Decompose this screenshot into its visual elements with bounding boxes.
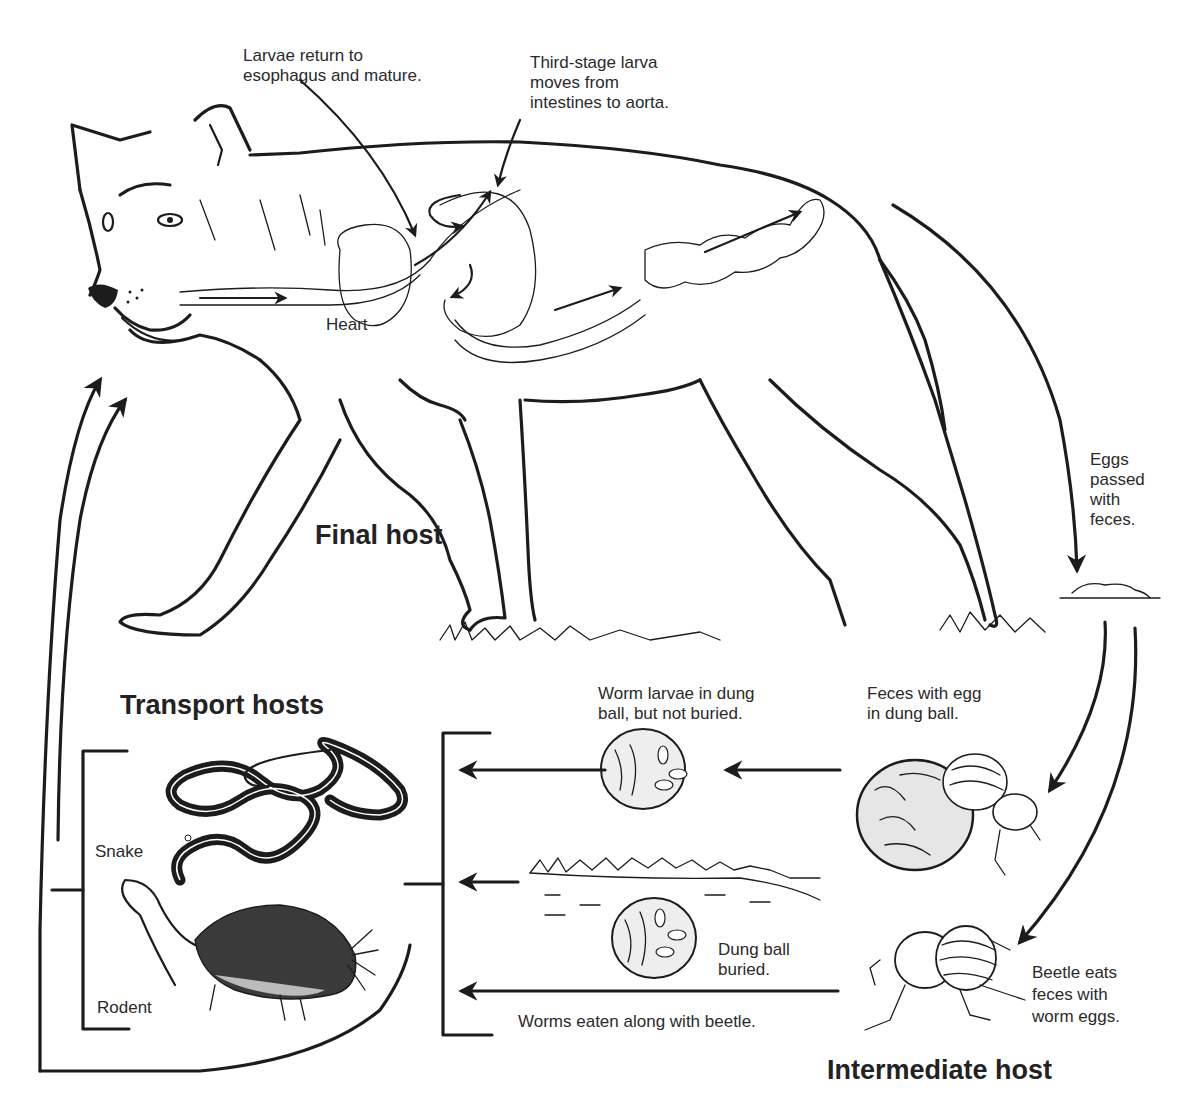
migration-path <box>180 80 824 363</box>
dung-ball-buried-label: Dung ball buried. <box>718 940 790 980</box>
life-cycle-diagram <box>0 0 1197 1111</box>
snake-illustration <box>171 743 402 881</box>
intermediate-host-title: Intermediate host <box>827 1055 1052 1086</box>
worm-larvae-label: Worm larvae in dung ball, but not buried… <box>598 684 755 724</box>
arrow-to-feces-ball <box>1050 622 1105 790</box>
rodent-label: Rodent <box>97 998 152 1018</box>
final-host-title: Final host <box>315 520 443 551</box>
wolf-illustration <box>72 106 1045 640</box>
snake-label: Snake <box>95 842 143 862</box>
eggs-passed-arrow <box>893 205 1160 598</box>
arrow-to-wolf-inner <box>58 400 125 840</box>
beetle-eats-label: Beetle eats feces with worm eggs. <box>1032 962 1120 1028</box>
transport-hosts-title: Transport hosts <box>120 690 324 721</box>
arrow-to-wolf-outer <box>40 380 100 1071</box>
worms-eaten-label: Worms eaten along with beetle. <box>518 1012 756 1032</box>
dung-beetle <box>865 926 1025 1030</box>
larvae-return-label: Larvae return to esophagus and mature. <box>243 46 422 86</box>
feces-with-egg-label: Feces with egg in dung ball. <box>867 684 981 724</box>
dung-ball-larvae <box>601 729 687 809</box>
rodent-illustration <box>122 880 378 1020</box>
heart-label: Heart <box>326 315 368 335</box>
third-stage-label: Third-stage larva moves from intestines … <box>530 53 669 113</box>
dung-ball-with-beetle <box>857 754 1040 875</box>
arrow-to-beetle <box>1020 628 1136 942</box>
eggs-passed-label: Eggs passed with feces. <box>1090 450 1145 530</box>
